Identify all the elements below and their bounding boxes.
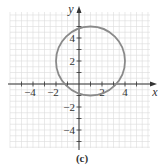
x-tick-label: 4 bbox=[122, 86, 128, 98]
y-tick-label: −4 bbox=[63, 124, 75, 136]
x-axis-label: x bbox=[151, 85, 158, 99]
y-axis-arrow-icon bbox=[77, 6, 82, 13]
x-tick-label: −2 bbox=[47, 86, 59, 98]
x-tick-label: −4 bbox=[24, 86, 36, 98]
y-tick-label: 2 bbox=[70, 55, 76, 67]
y-tick-label: −2 bbox=[63, 101, 75, 113]
coordinate-plane: −4−224−4−224xy bbox=[0, 0, 164, 150]
y-axis-label: y bbox=[67, 2, 74, 16]
figure-caption: (c) bbox=[0, 152, 164, 164]
